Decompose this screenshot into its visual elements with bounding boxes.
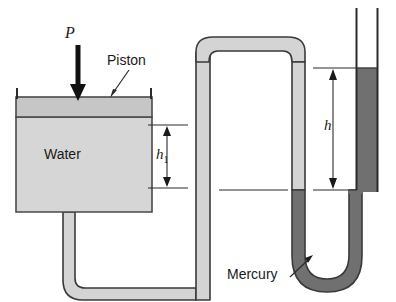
dimension-h (313, 68, 357, 190)
h1-arrowhead-top (163, 126, 171, 136)
pressure-label: P (65, 24, 75, 42)
h1-subscript: 1 (164, 154, 169, 165)
pressure-arrow (70, 45, 86, 101)
inverted-u-left-leg (196, 50, 210, 300)
h-dimension-label: h (324, 117, 332, 134)
piston-leader (110, 70, 129, 98)
open-tube-to-bend (349, 190, 362, 194)
mercury-bend-body (292, 190, 362, 292)
h-arrowhead-top (329, 69, 337, 80)
piston-leader-line (113, 70, 129, 93)
h-arrowhead-bottom (329, 178, 337, 189)
open-tube-right (349, 8, 378, 194)
inverted-u-crown (196, 37, 305, 62)
mercury-u-bend (292, 190, 362, 292)
inverted-u-right-leg (292, 62, 305, 190)
piston-band (16, 97, 152, 117)
connecting-pipe-left (63, 212, 196, 300)
figure-canvas: P Piston Water Mercury h1 h (0, 0, 396, 302)
h1-dimension-label: h1 (156, 146, 169, 165)
h1-arrowhead-bottom (163, 177, 171, 187)
h1-base: h (156, 146, 164, 162)
water-body (16, 117, 152, 212)
mercury-column-right (357, 68, 377, 192)
piston-label: Piston (107, 52, 146, 68)
mercury-label: Mercury (227, 266, 278, 282)
water-cylinder (16, 88, 152, 212)
water-label: Water (44, 146, 81, 162)
